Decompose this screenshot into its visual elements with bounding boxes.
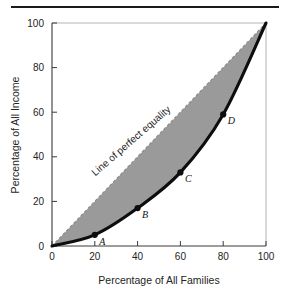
x-tick-label-60: 60 xyxy=(175,251,187,262)
y-tick-label-80: 80 xyxy=(33,62,45,73)
data-point-b xyxy=(135,205,141,211)
data-point-label-d: D xyxy=(227,115,236,126)
x-tick-label-100: 100 xyxy=(258,251,275,262)
x-tick-label-40: 40 xyxy=(132,251,144,262)
x-axis-tick-labels: 020406080100 xyxy=(49,251,275,262)
data-point-d xyxy=(220,111,226,117)
data-point-c xyxy=(177,169,183,175)
top-rule-divider xyxy=(11,6,279,8)
y-tick-label-100: 100 xyxy=(27,18,44,29)
x-tick-label-80: 80 xyxy=(218,251,230,262)
data-point-a xyxy=(92,232,98,238)
x-axis-title: Percentage of All Families xyxy=(98,274,219,286)
y-axis-title: Percentage of All Income xyxy=(9,76,21,193)
y-axis-ticks xyxy=(52,23,57,246)
x-tick-label-20: 20 xyxy=(89,251,101,262)
x-tick-label-0: 0 xyxy=(49,251,55,262)
data-point-label-c: C xyxy=(185,173,192,184)
y-tick-label-20: 20 xyxy=(33,196,45,207)
x-axis-ticks xyxy=(52,241,266,246)
data-point-label-a: A xyxy=(98,236,106,247)
y-axis-tick-labels: 020406080100 xyxy=(27,18,44,252)
lorenz-curve-chart: 020406080100 020406080100 ABCD Line of p… xyxy=(0,0,290,299)
y-tick-label-40: 40 xyxy=(33,151,45,162)
data-point-label-b: B xyxy=(142,209,148,220)
y-tick-label-60: 60 xyxy=(33,107,45,118)
lorenz-curve-figure: 020406080100 020406080100 ABCD Line of p… xyxy=(0,0,290,299)
y-tick-label-0: 0 xyxy=(38,241,44,252)
